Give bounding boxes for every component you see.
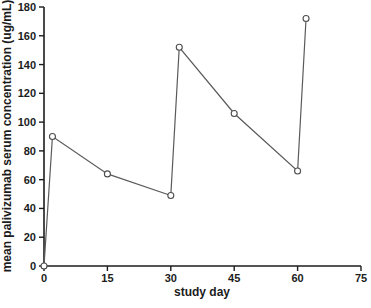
y-tick-label: 180	[18, 1, 36, 13]
y-tick-label: 160	[18, 30, 36, 42]
data-point-marker	[176, 44, 182, 50]
x-tick-label: 75	[355, 272, 367, 284]
y-tick-label: 60	[24, 174, 36, 186]
x-tick-label: 45	[228, 272, 240, 284]
y-tick-label: 120	[18, 87, 36, 99]
data-point-marker	[168, 192, 174, 198]
x-tick-label: 0	[41, 272, 47, 284]
data-point-marker	[303, 16, 309, 22]
x-tick-label: 30	[165, 272, 177, 284]
y-tick-label: 40	[24, 202, 36, 214]
y-tick-label: 0	[30, 260, 36, 272]
data-point-marker	[104, 171, 110, 177]
data-point-marker	[295, 168, 301, 174]
x-axis-label: study day	[174, 285, 230, 299]
x-tick-label: 60	[291, 272, 303, 284]
y-tick-label: 140	[18, 59, 36, 71]
axis-lines	[44, 7, 361, 266]
data-point-marker	[231, 110, 237, 116]
y-tick-label: 20	[24, 231, 36, 243]
chart-figure: 020406080100120140160180 01530456075 stu…	[0, 0, 371, 308]
series	[41, 16, 309, 269]
x-axis: 01530456075	[41, 266, 367, 284]
series-line	[44, 19, 306, 266]
y-tick-label: 80	[24, 145, 36, 157]
line-chart: 020406080100120140160180 01530456075 stu…	[0, 0, 371, 308]
y-axis-label: mean palivizumab serum concentration (ug…	[0, 0, 14, 272]
y-tick-label: 100	[18, 116, 36, 128]
data-point-marker	[41, 263, 47, 269]
x-tick-label: 15	[101, 272, 113, 284]
y-axis: 020406080100120140160180	[18, 1, 44, 272]
data-point-marker	[49, 134, 55, 140]
